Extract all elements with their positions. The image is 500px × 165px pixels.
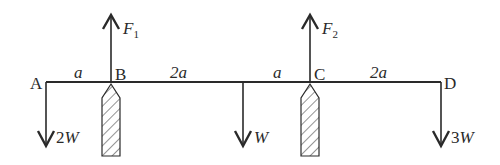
point-label-c: C bbox=[314, 66, 325, 83]
point-label-b: B bbox=[115, 66, 126, 83]
load-w-arrow-icon bbox=[235, 82, 251, 146]
support-c bbox=[301, 84, 319, 156]
point-label-a: A bbox=[30, 75, 42, 92]
support-b bbox=[102, 84, 120, 156]
span-label-cd: 2a bbox=[370, 64, 387, 81]
force-label-f1: F1 bbox=[123, 20, 139, 37]
load-coef: 3 bbox=[451, 128, 460, 147]
force-label-f2: F2 bbox=[322, 20, 338, 37]
force-symbol: F bbox=[123, 19, 133, 38]
force-symbol: F bbox=[322, 19, 332, 38]
load-label-2w: 2W bbox=[56, 129, 79, 146]
force-subscript: 1 bbox=[133, 28, 139, 40]
span-label-ab: a bbox=[74, 64, 83, 81]
load-coef: 2 bbox=[56, 128, 65, 147]
load-label-3w: 3W bbox=[451, 129, 474, 146]
load-symbol: W bbox=[254, 128, 268, 147]
span-label-wc: a bbox=[273, 64, 282, 81]
force-subscript: 2 bbox=[332, 28, 338, 40]
point-label-d: D bbox=[444, 75, 456, 92]
load-label-w: W bbox=[254, 129, 268, 146]
span-label-bw: 2a bbox=[170, 64, 187, 81]
load-symbol: W bbox=[65, 128, 79, 147]
load-symbol: W bbox=[460, 128, 474, 147]
